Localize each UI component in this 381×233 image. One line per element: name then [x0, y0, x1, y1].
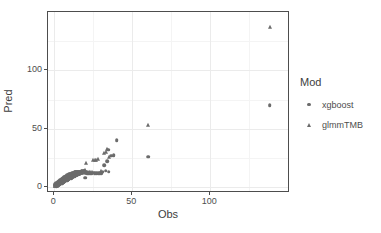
- gridline-horizontal: [48, 41, 288, 42]
- gridline-horizontal: [48, 70, 288, 71]
- data-point-glmmTMB: [90, 170, 94, 174]
- circle-marker-icon: [300, 103, 318, 106]
- x-tick-mark: [209, 192, 210, 195]
- gridline-vertical: [210, 12, 211, 191]
- legend-item-xgboost[interactable]: xgboost: [300, 97, 378, 112]
- gridline-vertical: [54, 12, 55, 191]
- data-point-xgboost: [107, 170, 111, 174]
- legend-item-glmmTMB[interactable]: glmmTMB: [300, 117, 378, 132]
- legend-item-label: glmmTMB: [322, 120, 363, 130]
- gridline-vertical: [132, 12, 133, 191]
- data-point-glmmTMB: [96, 157, 100, 161]
- x-tick-label: 0: [51, 196, 56, 206]
- data-point-xgboost: [102, 163, 106, 167]
- scatter-plot-figure: Obs Pred Mod xgboostglmmTMB 050100050100: [0, 0, 381, 233]
- gridline-horizontal: [48, 100, 288, 101]
- data-point-glmmTMB: [84, 171, 88, 175]
- data-point-xgboost: [146, 155, 150, 159]
- gridline-vertical: [249, 12, 250, 191]
- data-point-glmmTMB: [105, 147, 109, 151]
- data-point-glmmTMB: [107, 155, 111, 159]
- data-point-glmmTMB: [84, 160, 88, 164]
- data-point-xgboost: [84, 176, 88, 180]
- data-point-xgboost: [115, 139, 119, 143]
- x-axis-title: Obs: [47, 208, 289, 220]
- plot-panel: [47, 11, 289, 192]
- data-point-xgboost: [112, 153, 116, 157]
- gridline-horizontal: [48, 129, 288, 130]
- gridline-vertical: [171, 12, 172, 191]
- data-point-glmmTMB: [146, 123, 150, 127]
- y-axis-title: Pred: [2, 89, 14, 112]
- y-tick-label: 50: [32, 123, 42, 133]
- x-tick-mark: [131, 192, 132, 195]
- triangle-marker-icon: [300, 123, 318, 127]
- gridline-vertical: [93, 12, 94, 191]
- legend-item-label: xgboost: [322, 100, 354, 110]
- y-tick-mark: [44, 186, 47, 187]
- data-point-xgboost: [268, 104, 272, 108]
- legend-title: Mod: [300, 76, 378, 88]
- y-tick-mark: [44, 128, 47, 129]
- x-tick-label: 50: [126, 196, 136, 206]
- data-point-xgboost: [106, 160, 110, 164]
- y-tick-label: 100: [27, 64, 42, 74]
- data-point-glmmTMB: [99, 169, 103, 173]
- x-tick-label: 100: [202, 196, 217, 206]
- y-tick-label: 0: [37, 181, 42, 191]
- legend: Mod xgboostglmmTMB: [300, 76, 378, 137]
- gridline-horizontal: [48, 187, 288, 188]
- gridline-horizontal: [48, 158, 288, 159]
- y-tick-mark: [44, 69, 47, 70]
- data-point-glmmTMB: [268, 25, 272, 29]
- legend-items: xgboostglmmTMB: [300, 97, 378, 132]
- x-tick-mark: [53, 192, 54, 195]
